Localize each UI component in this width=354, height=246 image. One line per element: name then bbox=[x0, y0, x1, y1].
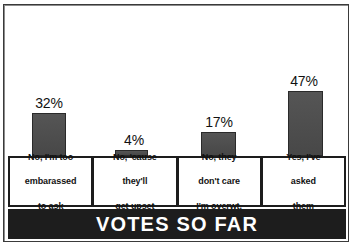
chart-title-banner: VOTES SO FAR bbox=[8, 209, 346, 239]
bar-value-label-1: 32% bbox=[8, 95, 90, 111]
bar-value-label-3: 17% bbox=[178, 114, 260, 130]
category-label-1-line2: embarassed bbox=[25, 175, 77, 187]
category-label-3-text: No, theydon't careI'm overwt. bbox=[196, 151, 242, 212]
bar-value-label-2: 4% bbox=[93, 132, 175, 148]
category-label-1-text: No, I'm tooembarassedto ask bbox=[25, 151, 77, 212]
plot-area: 32% 4% 17% 47% bbox=[8, 8, 346, 156]
chart-title-text: VOTES SO FAR bbox=[96, 213, 258, 236]
category-label-4-text: Yes, I'veaskedthem bbox=[286, 151, 320, 212]
category-label-2-line2: they'll bbox=[113, 175, 157, 187]
category-label-3-line1: No, they bbox=[196, 151, 242, 163]
bar-group-1: 32% bbox=[8, 8, 90, 156]
category-label-4-line2: asked bbox=[286, 175, 320, 187]
category-label-4-line1: Yes, I've bbox=[286, 151, 320, 163]
poll-bar-chart: 32% 4% 17% 47% No, I'm tooembarassedto a… bbox=[0, 0, 354, 246]
category-label-2: No, 'causethey'llget upset bbox=[94, 158, 175, 205]
category-label-3-line2: don't care bbox=[196, 175, 242, 187]
category-label-3: No, theydon't careI'm overwt. bbox=[179, 158, 260, 205]
category-labels-row: No, I'm tooembarassedto ask No, 'causeth… bbox=[8, 156, 346, 207]
bar-group-3: 17% bbox=[178, 8, 260, 156]
bar-1 bbox=[32, 113, 66, 156]
bar-4 bbox=[288, 91, 323, 156]
bar-value-label-4: 47% bbox=[263, 73, 345, 89]
category-label-4: Yes, I'veaskedthem bbox=[263, 158, 344, 205]
bar-group-2: 4% bbox=[93, 8, 175, 156]
bar-group-4: 47% bbox=[263, 8, 345, 156]
category-label-2-line1: No, 'cause bbox=[113, 151, 157, 163]
category-label-1-line1: No, I'm too bbox=[25, 151, 77, 163]
category-label-2-text: No, 'causethey'llget upset bbox=[113, 151, 157, 212]
category-label-1: No, I'm tooembarassedto ask bbox=[10, 158, 91, 205]
